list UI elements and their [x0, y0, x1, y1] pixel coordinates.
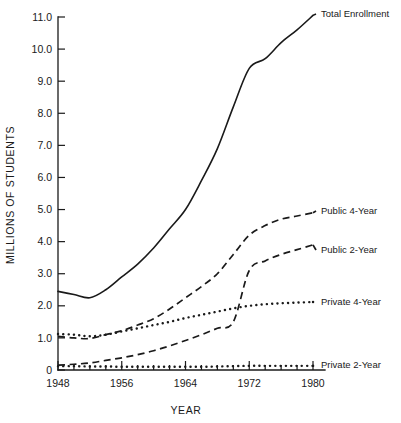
x-tick-label: 1964 — [174, 377, 198, 389]
x-tick-label: 1972 — [238, 377, 262, 389]
y-tick-label: 10.0 — [32, 43, 53, 55]
leader-line — [313, 365, 316, 366]
series-lines — [58, 15, 313, 366]
series-line-public-2-year — [58, 245, 313, 365]
y-tick-label: 11.0 — [32, 11, 52, 23]
series-line-total-enrollment — [58, 15, 313, 298]
y-axis-title: MILLIONS OF STUDENTS — [4, 126, 16, 264]
y-tick-label: 2.0 — [37, 299, 52, 311]
x-axis-title: YEAR — [171, 404, 202, 416]
series-label-private-4-year: Private 4-Year — [321, 296, 381, 307]
series-label-total-enrollment: Total Enrollment — [321, 8, 389, 19]
y-tick-label: 3.0 — [37, 267, 52, 279]
series-labels: Total EnrollmentPublic 4-YearPublic 2-Ye… — [321, 8, 389, 370]
leader-line — [313, 245, 316, 250]
y-tick-label: 7.0 — [37, 139, 52, 151]
y-axis-tick-labels: 01.02.03.04.05.06.07.08.09.010.011.0 — [32, 11, 53, 376]
x-tick-label: 1956 — [110, 377, 134, 389]
y-tick-label: 6.0 — [37, 171, 52, 183]
chart-canvas: 01.02.03.04.05.06.07.08.09.010.011.0 194… — [0, 0, 401, 423]
y-tick-label: 5.0 — [37, 203, 52, 215]
leader-line — [313, 211, 316, 213]
y-tick-label: 0 — [46, 364, 52, 376]
y-tick-label: 9.0 — [37, 75, 52, 87]
x-axis-tick-labels: 19481956196419721980 — [46, 377, 325, 389]
series-line-public-4-year — [58, 213, 313, 339]
enrollment-line-chart: 01.02.03.04.05.06.07.08.09.010.011.0 194… — [0, 0, 401, 423]
series-leader-lines — [313, 14, 316, 366]
y-tick-label: 8.0 — [37, 107, 52, 119]
y-axis-ticks — [58, 17, 65, 370]
series-label-public-4-year: Public 4-Year — [321, 205, 377, 216]
series-label-private-2-year: Private 2-Year — [321, 359, 381, 370]
x-tick-label: 1980 — [301, 377, 325, 389]
x-tick-label: 1948 — [46, 377, 70, 389]
series-line-private-2-year — [58, 366, 313, 367]
y-tick-label: 4.0 — [37, 235, 52, 247]
series-label-public-2-year: Public 2-Year — [321, 244, 377, 255]
y-tick-label: 1.0 — [37, 332, 52, 344]
leader-line — [313, 14, 316, 15]
series-line-private-4-year — [58, 302, 313, 336]
